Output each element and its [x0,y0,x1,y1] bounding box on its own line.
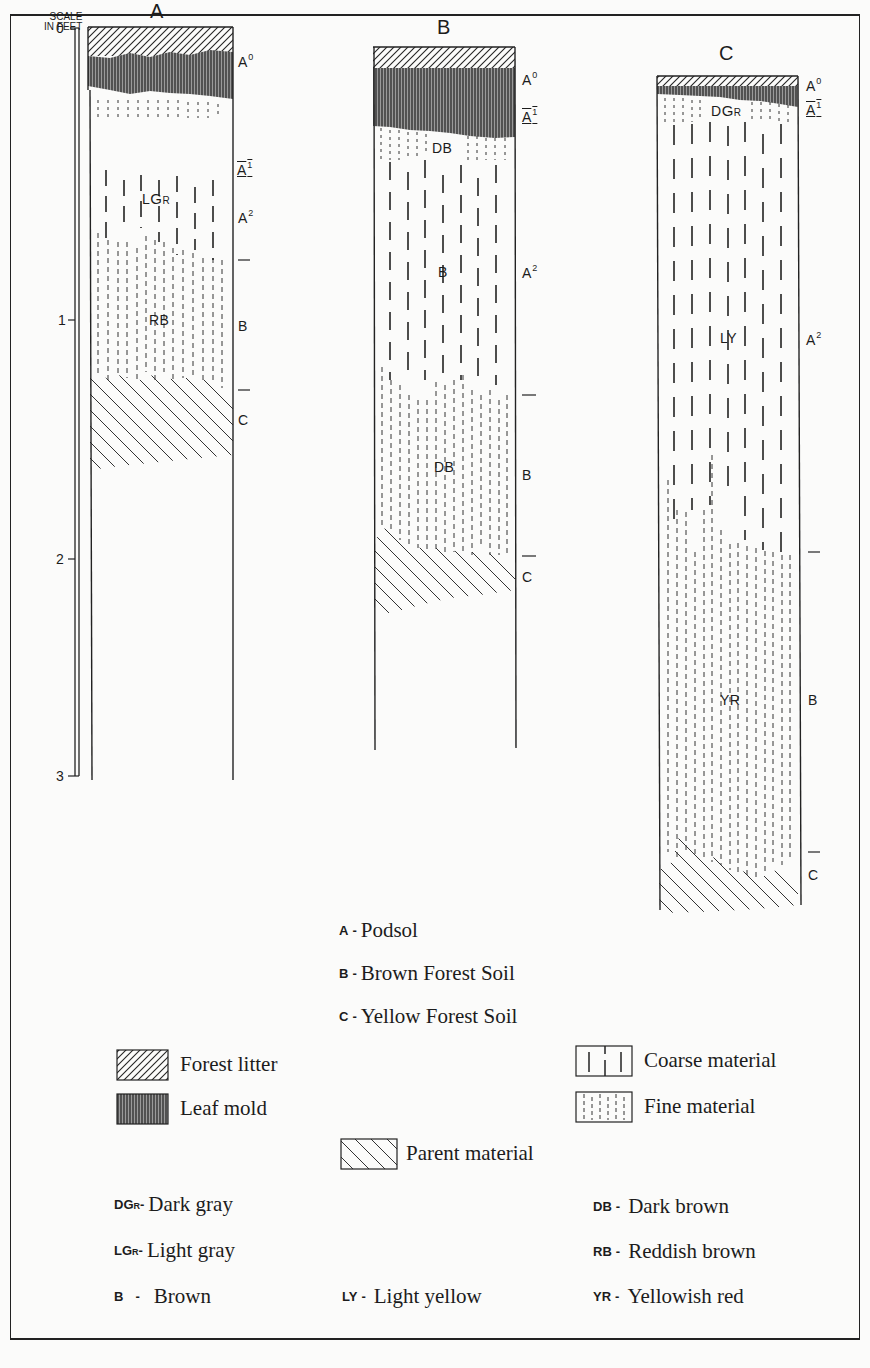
color-name: Dark brown [628,1194,729,1219]
legend-label: Fine material [644,1094,755,1119]
legend-label: Leaf mold [180,1096,267,1121]
column-b-horizon-c: C [522,569,532,585]
color-code: YR [593,1289,611,1304]
color-dark-gray: DGR- Dark gray [114,1192,233,1217]
scale-tick-3: 3 [56,768,64,784]
color-brown: B - Brown [114,1284,211,1309]
soil-type-name: Brown Forest Soil [361,961,515,986]
soil-type-a: A - Podsol [339,918,418,943]
color-dark-brown: DB - Dark brown [593,1194,729,1219]
legend-forest-litter: Forest litter [180,1052,277,1077]
color-sep: - [361,1289,365,1304]
leaf-mold-swatch [117,1094,168,1124]
column-c-color-yr: YR [720,692,740,708]
soil-type-sep: - [352,1009,356,1024]
profile-column-c [657,76,820,913]
column-b-color-db-top: DB [432,140,452,156]
column-b-horizon-a0: A0 [522,70,537,88]
soil-type-b: B - Brown Forest Soil [339,961,515,986]
color-sep: - [616,1244,620,1259]
column-a-horizon-a1: A1 [237,160,252,178]
legend-label: Forest litter [180,1052,277,1077]
column-a-horizon-b: B [238,318,247,334]
column-c-horizon-a2: A2 [806,330,821,348]
soil-type-sep: - [352,923,356,938]
column-c-horizon-a0: A0 [806,76,821,94]
forest-litter-swatch [117,1050,168,1080]
scale-tick-2: 2 [56,551,64,567]
color-sep: - [616,1199,620,1214]
color-sep: - [615,1289,619,1304]
color-sep: - [135,1289,139,1304]
legend-label: Parent material [406,1141,534,1166]
column-b-title: B [437,16,450,39]
legend-label: Coarse material [644,1048,776,1073]
soil-type-c: C - Yellow Forest Soil [339,1004,517,1029]
column-b-horizon-b: B [522,467,531,483]
depth-scale-bar [68,28,79,776]
soil-type-sep: - [352,966,356,981]
color-code: LGR- [114,1243,143,1258]
column-a-horizon-a2: A2 [238,208,253,226]
legend-parent-material: Parent material [406,1141,534,1166]
soil-type-code: C [339,1009,348,1024]
soil-type-name: Podsol [361,918,418,943]
color-code: DB [593,1199,612,1214]
color-yellowish-red: YR - Yellowish red [593,1284,744,1309]
soil-type-code: A [339,923,348,938]
column-b-color-db: DB [434,459,454,475]
color-light-gray: LGR- Light gray [114,1238,235,1263]
column-c-color-dgr: DGR [711,102,742,119]
scale-tick-0: 0 [56,20,64,36]
color-code: B [114,1289,123,1304]
parent-material-swatch [341,1139,397,1169]
legend-fine-material: Fine material [644,1094,755,1119]
column-a-color-lgr: LGR [142,190,170,207]
color-name: Dark gray [148,1192,233,1217]
column-a-title: A [150,0,163,23]
soil-type-code: B [339,966,348,981]
column-c-horizon-c: C [808,867,818,883]
column-a-color-rb: RB [149,312,169,328]
column-a-horizon-c: C [238,412,248,428]
column-a-horizon-a0: A0 [238,52,253,70]
color-name: Light gray [147,1238,235,1263]
color-name: Brown [154,1284,211,1309]
column-c-horizon-a1: A1 [806,100,821,118]
soil-type-name: Yellow Forest Soil [361,1004,518,1029]
coarse-material-swatch [576,1046,632,1076]
legend-leaf-mold: Leaf mold [180,1096,267,1121]
fine-material-swatch [576,1092,632,1122]
column-c-horizon-b: B [808,692,817,708]
profile-column-b [373,47,536,750]
scale-tick-1: 1 [58,312,66,328]
color-code: RB [593,1244,612,1259]
column-b-horizon-a2: A2 [522,263,537,281]
column-c-title: C [719,42,733,65]
color-name: Light yellow [374,1284,482,1309]
column-c-color-ly: LY [720,330,737,346]
color-reddish-brown: RB - Reddish brown [593,1239,756,1264]
color-light-yellow: LY - Light yellow [342,1284,482,1309]
profile-column-a [88,27,250,780]
legend-coarse-material: Coarse material [644,1048,776,1073]
color-name: Reddish brown [628,1239,756,1264]
color-code: LY [342,1289,357,1304]
column-b-color-b: B [438,264,448,280]
column-b-horizon-a1: A1 [522,107,537,125]
color-code: DGR- [114,1197,144,1212]
color-name: Yellowish red [627,1284,743,1309]
